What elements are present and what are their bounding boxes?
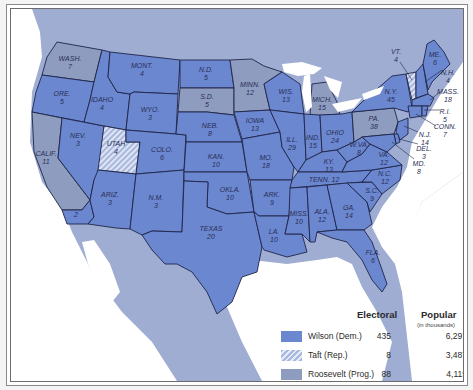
wilson-swatch <box>281 331 302 342</box>
label-pa: PA.38 <box>369 115 380 130</box>
label-calif-wilson: 2 <box>73 211 78 218</box>
state-mont[interactable] <box>108 52 180 94</box>
legend-electoral: 8 <box>386 350 391 360</box>
legend-popular-unit: (in thousands) <box>417 322 455 328</box>
label-vt: VT.4 <box>391 48 401 63</box>
taft-swatch <box>281 350 302 361</box>
legend-name: Wilson (Dem.) <box>308 331 362 341</box>
election-map: WASH.7 ORE.5 CALIF.11 2 IDAHO4 NEV.3 UTA… <box>11 9 463 381</box>
legend-popular: 3,487 <box>446 350 464 360</box>
state-ariz[interactable] <box>88 170 136 229</box>
legend-header-popular: Popular <box>421 309 456 320</box>
legend-row-wilson: Wilson (Dem.) 435 6,297 <box>281 331 464 345</box>
label-va: VA.12 <box>379 151 390 166</box>
state-ny[interactable] <box>352 74 412 112</box>
legend-row-roosevelt: Roosevelt (Prog.) 88 4,119 <box>281 369 464 382</box>
legend-name: Taft (Rep.) <box>308 350 348 360</box>
map-frame: WASH.7 ORE.5 CALIF.11 2 IDAHO4 NEV.3 UTA… <box>6 4 468 386</box>
state-wyo[interactable] <box>126 92 178 134</box>
roosevelt-swatch <box>281 369 302 380</box>
legend-popular: 4,119 <box>446 369 464 379</box>
state-ark[interactable] <box>250 180 292 216</box>
label-ky: KY.13 <box>324 158 335 173</box>
legend-electoral: 435 <box>377 331 391 341</box>
legend-electoral: 88 <box>382 369 391 379</box>
legend-name: Roosevelt (Prog.) <box>308 369 374 379</box>
label-tenn: TENN. 12 <box>309 176 340 183</box>
label-la: LA.10 <box>269 228 280 243</box>
legend-popular: 6,297 <box>446 331 464 341</box>
legend-row-taft: Taft (Rep.) 8 3,487 <box>281 350 464 364</box>
map-panel: WASH.7 ORE.5 CALIF.11 2 IDAHO4 NEV.3 UTA… <box>10 8 464 382</box>
state-ri[interactable] <box>422 106 428 116</box>
legend-header-electoral: Electoral <box>357 309 397 320</box>
